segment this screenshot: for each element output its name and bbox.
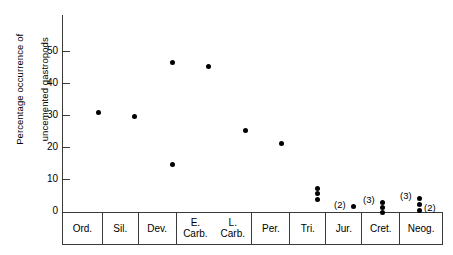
jur-point-1 <box>351 204 356 209</box>
neog-point-1 <box>417 196 422 201</box>
neog-count-label-left: (3) <box>400 191 412 201</box>
y-tick-label-30: 30 <box>18 110 58 120</box>
y-tick-30 <box>63 115 70 116</box>
y-tick-10 <box>63 179 70 180</box>
period-label-early-carboniferous: E. Carb. <box>183 217 207 239</box>
period-cell-silurian: Sil. <box>103 212 139 244</box>
period-label-devonian: Dev. <box>147 223 167 234</box>
period-label-silurian: Sil. <box>113 223 127 234</box>
tri-point-3 <box>315 197 320 202</box>
tri-point-2 <box>315 191 320 196</box>
y-tick-label-20: 20 <box>18 142 58 152</box>
y-tick-label-50: 50 <box>18 46 58 56</box>
period-cell-carboniferous: E. Carb. L. Carb. <box>177 212 253 244</box>
period-cell-neogene: Neog. <box>400 212 442 244</box>
y-tick-label-0: 0 <box>18 206 58 216</box>
tri-point-1 <box>315 186 320 191</box>
period-cell-triassic: Tri. <box>290 212 326 244</box>
period-label-cretaceous: Cret. <box>370 223 392 234</box>
neog-point-2 <box>417 202 422 207</box>
y-tick-20 <box>63 147 70 148</box>
period-label-late-carboniferous: L. Carb. <box>221 217 245 239</box>
y-tick-label-40: 40 <box>18 78 58 88</box>
ord-point-1 <box>96 110 101 115</box>
ecarb-point-1 <box>206 64 211 69</box>
y-tick-50 <box>63 51 70 52</box>
y-tick-label-10: 10 <box>18 174 58 184</box>
dev-point-2 <box>170 162 175 167</box>
period-label-late-carboniferous-line1: L. <box>221 217 245 228</box>
cret-point-1 <box>380 200 385 205</box>
y-axis-line <box>62 15 63 212</box>
period-label-permian: Per. <box>262 223 280 234</box>
period-label-late-carboniferous-line2: Carb. <box>221 228 245 239</box>
period-label-ordovician: Ord. <box>73 223 92 234</box>
period-cell-devonian: Dev. <box>139 212 177 244</box>
period-label-neogene: Neog. <box>408 223 435 234</box>
period-cell-permian: Per. <box>252 212 290 244</box>
period-label-triassic: Tri. <box>301 223 315 234</box>
sil-point-1 <box>132 114 137 119</box>
period-cell-jurassic: Jur. <box>326 212 362 244</box>
per-point-1 <box>279 141 284 146</box>
period-cell-ordovician: Ord. <box>63 212 103 244</box>
chart-figure: Percentage occurrence of uncemented gast… <box>0 0 453 255</box>
period-label-early-carboniferous-line1: E. <box>183 217 207 228</box>
period-cell-cretaceous: Cret. <box>362 212 400 244</box>
period-label-early-carboniferous-line2: Carb. <box>183 228 207 239</box>
lcarb-point-1 <box>243 128 248 133</box>
period-label-jurassic: Jur. <box>336 223 352 234</box>
jur-count-label: (2) <box>334 200 346 210</box>
dev-point-1 <box>170 60 175 65</box>
cret-count-label: (3) <box>363 195 375 205</box>
y-tick-40 <box>63 83 70 84</box>
period-axis: Ord. Sil. Dev. E. Carb. L. Carb. Per. Tr… <box>62 212 443 245</box>
